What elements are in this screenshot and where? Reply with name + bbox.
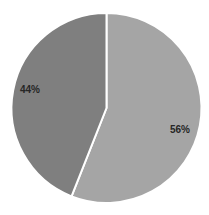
pie-slices	[11, 13, 201, 203]
slice-label-56: 56%	[170, 124, 190, 135]
pie-chart: 56% 44%	[0, 0, 209, 215]
slice-label-44: 44%	[20, 84, 40, 95]
